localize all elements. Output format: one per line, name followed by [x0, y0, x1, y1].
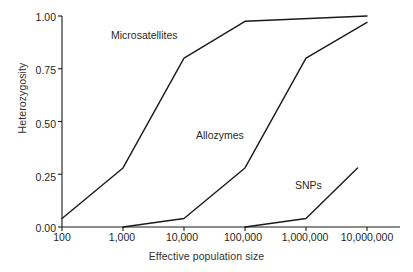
- x-tick-label: 10,000: [166, 231, 198, 243]
- x-tick-label: 1,000: [109, 231, 135, 243]
- heterozygosity-line-chart: Heterozygosity 1.00 0.75 0.50 0.25 0.00 …: [0, 0, 413, 272]
- x-axis-tick-labels: 100 1,000 10,000 100,000 1,000,000 10,00…: [0, 231, 413, 247]
- x-tick-label: 10,000,000: [341, 231, 394, 243]
- y-tick-label: 0.25: [22, 171, 56, 183]
- series-label-microsatellites: Microsatellites: [111, 29, 178, 41]
- x-tick-label: 1,000,000: [282, 231, 329, 243]
- x-axis-title: Effective population size: [0, 250, 413, 262]
- y-tick-label: 1.00: [22, 11, 56, 23]
- y-tick-label: 0.75: [22, 64, 56, 76]
- series-line-snps: [245, 168, 358, 227]
- y-axis-tick-marks: [58, 16, 62, 227]
- y-tick-label: 0.50: [22, 118, 56, 130]
- x-tick-label: 100,000: [224, 231, 262, 243]
- series-line-allozymes: [123, 22, 367, 227]
- x-tick-label: 100: [53, 231, 71, 243]
- series-label-allozymes: Allozymes: [196, 129, 244, 141]
- series-label-snps: SNPs: [295, 179, 322, 191]
